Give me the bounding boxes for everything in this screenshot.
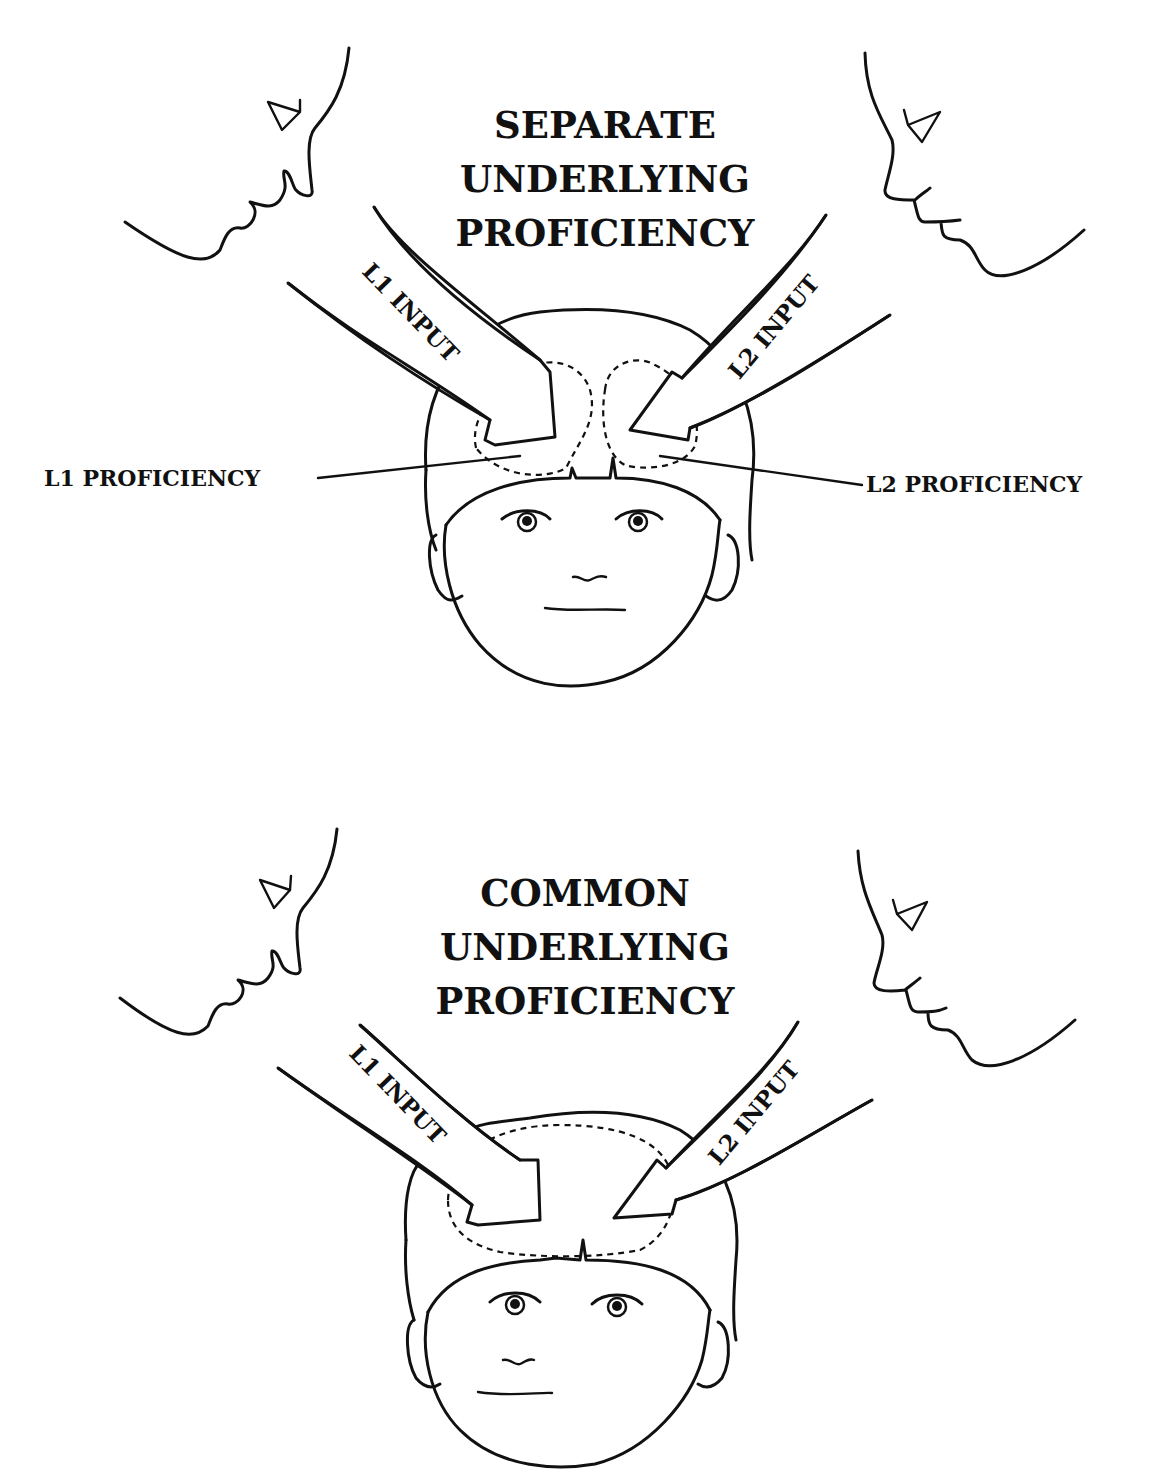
title-line-1: SEPARATE — [494, 103, 716, 147]
left-speaker-profile-icon — [125, 48, 349, 259]
title-line-1: COMMON — [480, 871, 690, 915]
l1-proficiency-label: L1 PROFICIENCY — [44, 465, 261, 491]
l1-proficiency-leader-line — [318, 456, 520, 478]
l2-proficiency-leader-line — [660, 456, 862, 485]
right-speaker-profile-icon — [865, 53, 1084, 276]
title-line-2: UNDERLYING — [460, 157, 750, 201]
proficiency-diagram: SEPARATE UNDERLYING PROFICIENCY — [0, 0, 1164, 1484]
panel-common: COMMON UNDERLYING PROFICIENCY — [120, 829, 1075, 1467]
title-line-3: PROFICIENCY — [435, 979, 735, 1023]
title-line-2: UNDERLYING — [440, 925, 730, 969]
left-speaker-profile-icon — [120, 829, 337, 1034]
l1-input-arrow — [278, 1025, 540, 1225]
title-line-3: PROFICIENCY — [455, 211, 755, 255]
l2-proficiency-label: L2 PROFICIENCY — [866, 471, 1083, 497]
right-speaker-profile-icon — [858, 851, 1075, 1066]
panel-separate: SEPARATE UNDERLYING PROFICIENCY — [44, 48, 1084, 686]
